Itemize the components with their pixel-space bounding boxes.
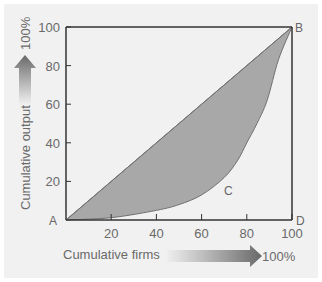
y-tick-label: 20	[46, 174, 60, 189]
x-arrow-label: 100%	[262, 249, 296, 264]
x-tick-label: 40	[149, 226, 163, 241]
y-tick-label: 80	[46, 59, 60, 74]
y-arrow-icon	[14, 55, 36, 105]
y-tick-label: 40	[46, 136, 60, 151]
y-arrow-label: 100%	[18, 16, 33, 50]
lorenz-chart: 20406080100 20406080100 A B C D Cumulati…	[0, 0, 322, 282]
point-d-label: D	[296, 214, 305, 228]
x-tick-label: 100	[281, 226, 303, 241]
y-tick-label: 100	[38, 20, 60, 35]
point-a-label: A	[49, 214, 57, 228]
x-tick-label: 20	[104, 226, 118, 241]
x-arrow-icon	[165, 245, 262, 267]
point-c-label: C	[224, 184, 233, 198]
x-tick-label: 60	[194, 226, 208, 241]
y-tick-label: 60	[46, 97, 60, 112]
x-ticks: 20406080100	[104, 214, 303, 241]
x-tick-label: 80	[240, 226, 254, 241]
y-axis-label: Cumulative output	[18, 105, 33, 210]
point-b-label: B	[295, 21, 303, 35]
x-axis-label: Cumulative firms	[63, 247, 160, 262]
